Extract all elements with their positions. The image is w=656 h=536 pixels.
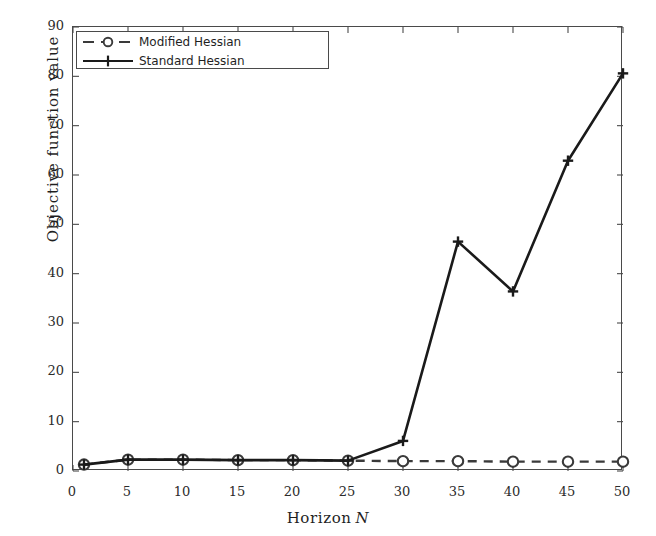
x-tick-label: 20	[272, 484, 312, 499]
x-axis-title: HorizonN	[0, 509, 656, 527]
data-point-marker	[618, 456, 628, 466]
y-tick-label: 20	[24, 363, 64, 378]
x-tick-label: 50	[602, 484, 642, 499]
legend-label-standard-hessian: Standard Hessian	[139, 54, 245, 68]
data-series-group	[79, 68, 628, 470]
data-point-marker	[398, 456, 408, 466]
data-point-marker	[453, 456, 463, 466]
x-tick-label: 40	[492, 484, 532, 499]
y-tick-label: 0	[24, 462, 64, 477]
x-tick-label: 5	[107, 484, 147, 499]
x-tick-label: 0	[52, 484, 92, 499]
x-axis-title-prefix: Horizon	[287, 509, 352, 527]
figure-container: Modified Hessian Standard Hessian 010203…	[0, 0, 656, 536]
series-markers-modified-hessian	[79, 454, 628, 469]
circle-marker-icon	[77, 34, 139, 50]
chart-canvas	[73, 27, 623, 471]
plot-area: Modified Hessian Standard Hessian	[72, 26, 622, 470]
x-tick-label: 10	[162, 484, 202, 499]
series-line-standard-hessian	[84, 73, 623, 464]
x-tick-label: 45	[547, 484, 587, 499]
legend-item-standard-hessian: Standard Hessian	[77, 52, 328, 70]
data-point-marker	[563, 456, 573, 466]
axis-ticks	[73, 27, 623, 471]
x-tick-label: 25	[327, 484, 367, 499]
legend-box: Modified Hessian Standard Hessian	[76, 31, 329, 69]
legend-item-modified-hessian: Modified Hessian	[77, 33, 328, 51]
x-tick-label: 15	[217, 484, 257, 499]
legend-label-modified-hessian: Modified Hessian	[139, 35, 241, 49]
plus-marker-icon	[77, 53, 139, 69]
x-tick-label: 35	[437, 484, 477, 499]
series-markers-standard-hessian	[79, 68, 628, 470]
y-tick-label: 40	[24, 265, 64, 280]
x-axis-title-symbol: N	[352, 509, 370, 527]
data-point-marker	[508, 456, 518, 466]
y-axis-title: Objective function value	[44, 24, 62, 254]
y-tick-label: 30	[24, 314, 64, 329]
x-tick-label: 30	[382, 484, 422, 499]
y-tick-label: 10	[24, 413, 64, 428]
